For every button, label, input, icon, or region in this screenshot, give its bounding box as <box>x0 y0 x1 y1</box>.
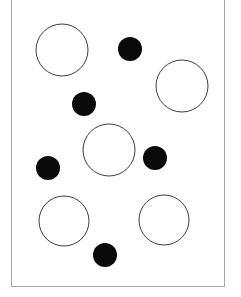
dot-1 <box>118 37 142 61</box>
open-5 <box>139 195 189 245</box>
dot-4 <box>143 146 167 170</box>
open-2 <box>156 60 208 112</box>
dot-5 <box>93 243 117 267</box>
dot-2 <box>72 92 96 116</box>
open-4 <box>39 196 89 246</box>
stimulus-root <box>0 0 241 297</box>
dot-3 <box>36 156 60 180</box>
open-1 <box>36 24 88 76</box>
open-3 <box>83 124 135 176</box>
shape-canvas <box>0 0 241 297</box>
